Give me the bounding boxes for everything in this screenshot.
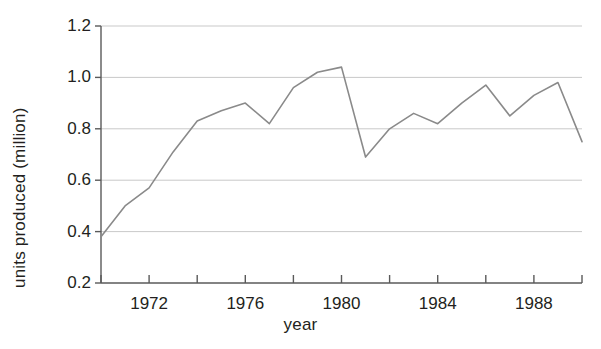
line-chart: units produced (million) year 0.20.40.60…: [0, 0, 601, 349]
x-tick-label: 1980: [323, 295, 361, 312]
y-tick-label: 0.6: [35, 171, 91, 188]
y-tick-label: 0.8: [35, 120, 91, 137]
y-tick-label: 1.2: [35, 17, 91, 34]
x-tick-label: 1976: [226, 295, 264, 312]
x-tick-label: 1972: [130, 295, 168, 312]
y-tick-label: 0.4: [35, 223, 91, 240]
y-tick-label: 1.0: [35, 68, 91, 85]
x-tick-label: 1988: [515, 295, 553, 312]
x-tick-label: 1984: [419, 295, 457, 312]
data-series-line: [101, 67, 582, 237]
y-tick-label: 0.2: [35, 274, 91, 291]
